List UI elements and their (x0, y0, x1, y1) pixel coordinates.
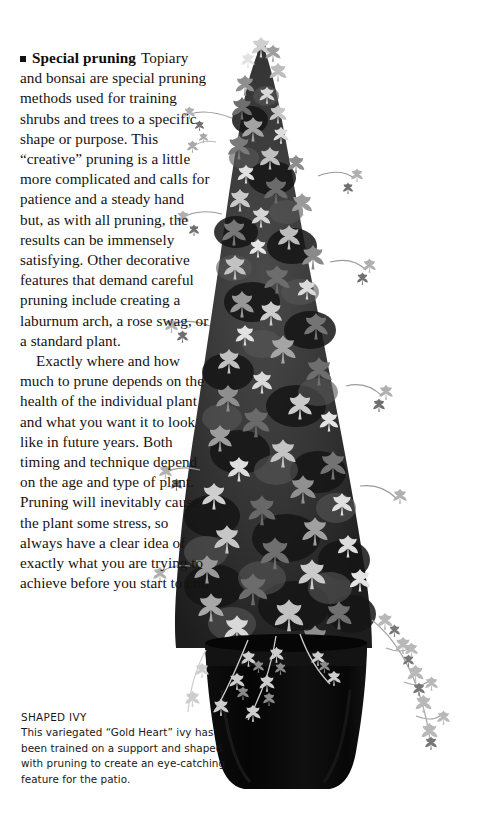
caption-title: SHAPED IVY (21, 710, 236, 725)
run-in-heading: Special pruning (32, 49, 136, 66)
plant-support-pole (255, 44, 268, 180)
photo-caption: SHAPED IVY This variegated “Gold Heart” … (21, 710, 236, 787)
book-page: Special pruning Topiary and bonsai are s… (0, 0, 497, 820)
paragraph-2: Exactly where and how much to prune depe… (20, 351, 210, 593)
body-text-column: Special pruning Topiary and bonsai are s… (20, 48, 210, 593)
ivy-leaves (194, 37, 370, 654)
paragraph-special-pruning: Special pruning Topiary and bonsai are s… (20, 48, 210, 351)
caption-body: This variegated “Gold Heart” ivy has bee… (21, 725, 236, 787)
square-bullet-icon (20, 56, 26, 62)
paragraph-1-text: Topiary and bonsai are special pruning m… (20, 49, 210, 349)
